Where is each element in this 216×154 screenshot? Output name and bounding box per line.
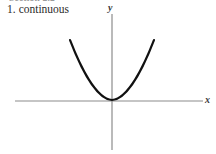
figure-page: Section 2.2 1.continuous y x [0,0,216,154]
parabola-graph [0,0,216,154]
y-axis-label: y [108,2,112,13]
x-axis-label: x [205,94,210,105]
